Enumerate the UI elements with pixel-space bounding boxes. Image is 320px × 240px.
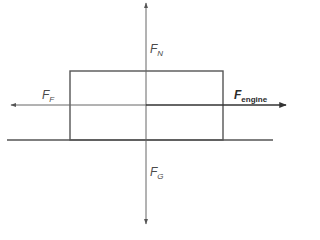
gravity-force-label: FG <box>150 166 164 181</box>
normal-force-subscript: N <box>157 49 163 58</box>
engine-force-subscript: engine <box>241 95 267 104</box>
normal-force-label: FN <box>150 43 163 58</box>
friction-force-label: FF <box>42 89 54 104</box>
gravity-force-subscript: G <box>157 172 163 181</box>
engine-force-label: Fengine <box>234 89 267 104</box>
friction-force-subscript: F <box>49 95 54 104</box>
